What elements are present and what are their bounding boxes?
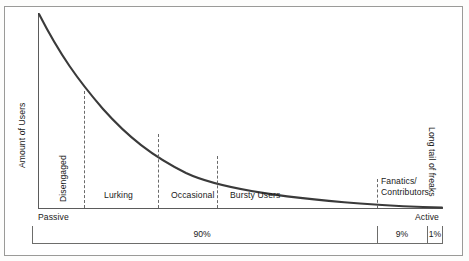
- divider-lurking-occasional: [158, 134, 159, 208]
- bracket-tick-left: [32, 226, 33, 243]
- divider-bursty-fanatics: [377, 179, 378, 208]
- segment-label-lurking: Lurking: [104, 190, 133, 200]
- segment-label-fanatics-contributors: Fanatics/ Contributors: [381, 176, 429, 197]
- y-axis-label: Amount of Users: [17, 103, 27, 169]
- x-axis-left-label: Passive: [38, 212, 69, 222]
- plot-area: Amount of Users Disengaged Lurking Occas…: [0, 0, 469, 261]
- bracket-percent-9: 9%: [384, 229, 420, 239]
- segment-label-occasional: Occasional: [171, 190, 215, 200]
- segment-label-bursty-users: Bursty Users: [230, 190, 280, 200]
- x-axis-right-label: Active: [415, 212, 439, 222]
- bracket-percent-90: 90%: [182, 229, 222, 239]
- x-axis-line: [38, 208, 443, 209]
- segment-label-long-tail-of-freaks: Long tail of freaks: [427, 127, 437, 197]
- divider-disengaged-lurking: [84, 91, 85, 208]
- fanatics-line-1: Fanatics/: [381, 176, 417, 186]
- segment-label-disengaged: Disengaged: [58, 155, 68, 202]
- y-axis-line: [38, 13, 39, 209]
- chart-figure: Amount of Users Disengaged Lurking Occas…: [0, 0, 469, 261]
- power-law-curve: [0, 0, 469, 261]
- fanatics-line-2: Contributors: [381, 187, 429, 197]
- bracket-baseline: [32, 243, 443, 244]
- bracket-percent-1: 1%: [428, 229, 442, 239]
- divider-occasional-bursty: [217, 156, 218, 208]
- bracket-tick-90-9: [377, 226, 378, 243]
- percentage-bracket: 90% 9% 1%: [32, 226, 443, 244]
